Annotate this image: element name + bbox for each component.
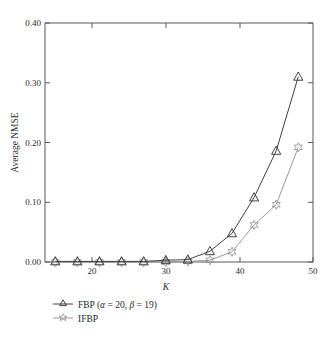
data-point-marker [205, 246, 214, 254]
x-tick-label: 50 [309, 266, 319, 276]
y-tick-label: 0.30 [25, 78, 41, 88]
legend-fbp-prefix: FBP ( [78, 300, 100, 311]
x-axis-title: K [162, 282, 170, 292]
y-axis-ticks [45, 23, 313, 262]
y-tick-label: 0.20 [25, 138, 41, 148]
legend-fbp-alpha-val: = 20, [105, 300, 129, 310]
data-point-marker [294, 143, 302, 152]
data-point-marker [294, 72, 303, 80]
legend-label-ifbp: IFBP [78, 314, 98, 324]
x-axis-ticks [92, 23, 313, 262]
x-tick-label: 30 [162, 266, 172, 276]
y-tick-label: 0.40 [25, 18, 41, 28]
legend [53, 300, 73, 321]
y-axis-tick-labels: 0.40 0.30 0.20 0.10 0.00 [25, 18, 41, 267]
y-axis-title: Average NMSE [10, 112, 20, 172]
legend-item-ifbp[interactable] [53, 314, 73, 321]
series-ifbp [51, 143, 302, 267]
x-tick-label: 20 [88, 266, 98, 276]
legend-item-fbp[interactable] [53, 300, 73, 306]
series-fbp [51, 72, 303, 265]
plot-frame [45, 23, 313, 262]
x-axis-tick-labels: 20 30 40 50 [88, 266, 319, 276]
chart-figure: 0.40 0.30 0.20 0.10 0.00 20 30 40 50 K A… [0, 0, 332, 338]
legend-label-fbp: FBP (α = 20, β = 19) [78, 300, 157, 311]
legend-fbp-beta-val: = 19) [134, 300, 157, 311]
x-tick-label: 40 [236, 266, 246, 276]
y-tick-label: 0.10 [25, 197, 41, 207]
series-line [55, 147, 298, 262]
y-tick-label: 0.00 [25, 257, 41, 267]
series-line [55, 77, 298, 262]
chart-svg: 0.40 0.30 0.20 0.10 0.00 20 30 40 50 K A… [0, 0, 332, 338]
